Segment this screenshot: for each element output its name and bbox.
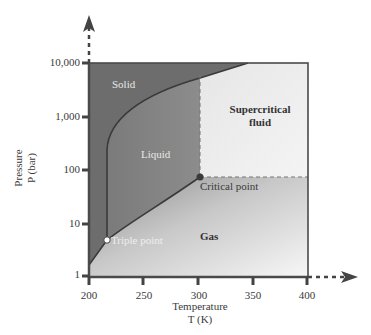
y-tick-label: 1 [44,268,80,280]
x-tick-label: 250 [136,289,153,301]
critical-point-label: Critical point [200,180,258,192]
x-tick-label: 200 [81,289,98,301]
x-tick-label: 400 [299,289,316,301]
supercritical-fluid-label: Supercritical fluid [225,103,295,129]
y-tick-label: 100 [44,163,80,175]
y-tick-label: 10,000 [44,56,80,68]
triple-point-marker [104,237,110,243]
y-tick-label: 10 [44,217,80,229]
triple-point-label: Triple point [111,234,163,246]
gas-label: Gas [200,230,218,242]
y-tick-label: 1,000 [44,110,80,122]
liquid-label: Liquid [141,148,170,160]
x-tick-label: 350 [245,289,262,301]
x-axis-title: Temperature T (K) [160,300,240,326]
y-axis-title: Pressure P (bar) [12,133,38,203]
solid-label: Solid [112,78,135,90]
